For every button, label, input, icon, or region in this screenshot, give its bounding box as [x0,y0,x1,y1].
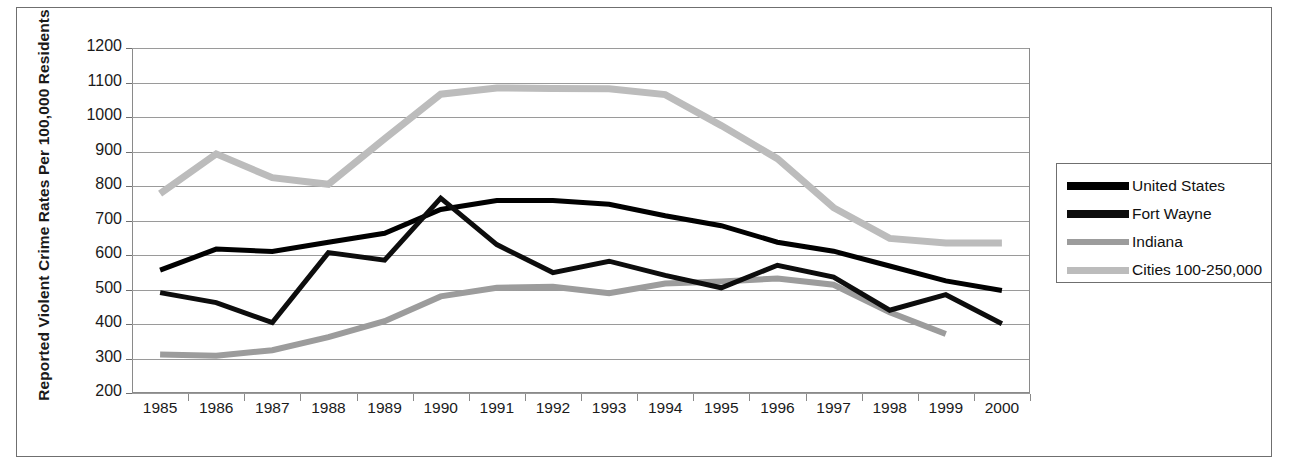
x-axis-tick-mark [188,394,189,401]
x-axis-tick-mark [862,394,863,401]
legend-item[interactable]: Indiana [1067,228,1271,256]
x-axis-tick-label: 1996 [749,399,805,417]
legend-swatch-icon [1067,267,1129,274]
x-axis-tick-mark [693,394,694,401]
x-axis-tick-label: 2000 [974,399,1030,417]
x-axis-tick-label: 1985 [132,399,188,417]
x-axis-tick-mark [1030,394,1031,401]
x-axis-tick-label: 1998 [862,399,918,417]
legend-item[interactable]: United States [1067,172,1271,200]
x-axis-tick-mark [357,394,358,401]
x-axis-tick-label: 1989 [357,399,413,417]
y-axis-tick-label: 400 [62,313,122,331]
x-axis-tick-label: 1988 [300,399,356,417]
x-axis-tick-label: 1992 [525,399,581,417]
x-axis-tick-mark [525,394,526,401]
x-axis-tick-mark [300,394,301,401]
y-axis-tick-label: 1100 [62,72,122,90]
x-axis-tick-mark [413,394,414,401]
x-axis-tick-label: 1990 [413,399,469,417]
y-axis-tick-label: 500 [62,279,122,297]
y-axis-title: Reported Violent Crime Rates Per 100,000… [35,0,53,415]
y-axis-tick-label: 700 [62,210,122,228]
x-axis-tick-mark [974,394,975,401]
x-axis-tick-mark [244,394,245,401]
x-axis-tick-label: 1986 [188,399,244,417]
x-axis-tick-mark [581,394,582,401]
legend-item-label: Indiana [1132,233,1183,251]
x-axis-tick-label: 1987 [244,399,300,417]
x-axis-tick-mark [469,394,470,401]
y-axis-tick-label: 200 [62,382,122,400]
series-line [160,201,1002,291]
x-axis-tick-label: 1994 [637,399,693,417]
legend-swatch-icon [1067,210,1129,218]
legend-item[interactable]: Fort Wayne [1067,200,1271,228]
x-axis-tick-label: 1997 [806,399,862,417]
x-axis-tick-mark [918,394,919,401]
legend-item-label: Fort Wayne [1132,205,1212,223]
y-axis-tick-label: 600 [62,244,122,262]
y-axis-tick-label: 1000 [62,106,122,124]
x-axis-tick-label: 1999 [918,399,974,417]
x-axis-tick-label: 1993 [581,399,637,417]
x-axis-tick-label: 1995 [693,399,749,417]
plot-area [132,48,1030,393]
legend-item-label: United States [1132,177,1225,195]
series-lines [132,48,1030,393]
x-axis-tick-label: 1991 [469,399,525,417]
y-axis-tick-label: 900 [62,141,122,159]
legend-item[interactable]: Cities 100-250,000 [1067,256,1271,284]
y-axis-tick-label: 800 [62,175,122,193]
x-axis-tick-mark [637,394,638,401]
x-axis-tick-mark [749,394,750,401]
legend-swatch-icon [1067,239,1129,245]
x-axis-tick-mark [806,394,807,401]
legend-swatch-icon [1067,182,1129,190]
series-line [160,88,1002,243]
y-axis-tick-label: 1200 [62,37,122,55]
legend-item-label: Cities 100-250,000 [1132,261,1262,279]
legend: United States Fort Wayne Indiana Cities … [1056,163,1272,283]
chart-figure: Reported Violent Crime Rates Per 100,000… [0,0,1290,469]
gridline [132,393,1030,394]
y-axis-tick-label: 300 [62,348,122,366]
